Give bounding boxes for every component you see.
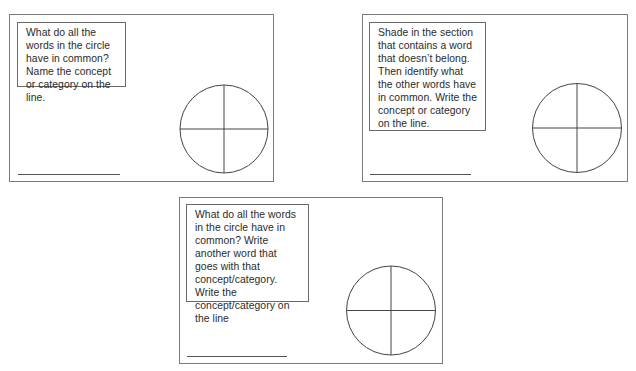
card-1-prompt: What do all the words in the circle have… <box>17 22 126 87</box>
card-name-the-concept: What do all the words in the circle have… <box>9 14 274 182</box>
four-section-circle <box>345 264 437 357</box>
card-odd-one-out: Shade in the section that contains a wor… <box>362 14 628 182</box>
answer-line[interactable] <box>18 174 120 175</box>
answer-line[interactable] <box>187 356 287 357</box>
card-2-prompt: Shade in the section that contains a wor… <box>369 22 486 131</box>
card-3-prompt: What do all the words in the circle have… <box>186 204 309 302</box>
card-add-a-word: What do all the words in the circle have… <box>179 197 443 364</box>
four-section-circle <box>179 83 269 175</box>
four-section-circle <box>531 82 623 174</box>
answer-line[interactable] <box>370 174 471 175</box>
